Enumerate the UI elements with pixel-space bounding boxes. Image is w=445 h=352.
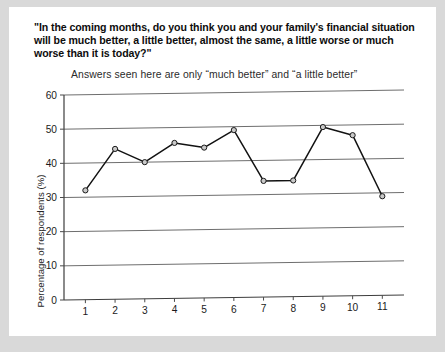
chart-canvas: 0102030405060 1234567891011 Percentage o…: [33, 89, 413, 324]
y-axis-ticks: 0102030405060: [46, 90, 64, 306]
x-tick-label: 1: [83, 306, 89, 317]
data-point: [231, 127, 236, 132]
scanned-page: "In the coming months, do you think you …: [0, 0, 445, 352]
gridline: [64, 158, 404, 163]
y-tick-label: 50: [46, 124, 58, 135]
y-tick-label: 20: [46, 226, 58, 237]
gridline: [64, 261, 404, 266]
x-tick-label: 2: [112, 305, 118, 316]
gridline: [64, 90, 404, 95]
y-tick-label: 10: [46, 260, 58, 271]
x-tick-label: 4: [172, 304, 178, 315]
data-series: [83, 124, 385, 198]
data-point: [350, 133, 355, 138]
series-line: [85, 127, 382, 196]
x-tick-label: 10: [347, 302, 359, 313]
x-tick-label: 11: [377, 301, 388, 312]
figure-card: "In the coming months, do you think you …: [9, 7, 436, 336]
data-point: [291, 178, 296, 183]
x-tick-label: 8: [290, 303, 296, 314]
data-point: [320, 124, 325, 129]
y-tick-label: 30: [46, 192, 58, 203]
data-point: [172, 140, 177, 145]
x-tick-label: 9: [320, 302, 326, 313]
data-point: [112, 146, 117, 151]
x-tick-label: 5: [201, 304, 207, 315]
data-point: [142, 160, 147, 165]
gridline: [64, 193, 404, 198]
axes: [64, 95, 404, 300]
y-tick-label: 60: [46, 90, 58, 101]
question-title: "In the coming months, do you think you …: [34, 21, 419, 61]
gridlines: [64, 90, 404, 266]
y-axis-label: Percentage of respondents (%): [35, 175, 46, 308]
y-tick-label: 40: [46, 158, 58, 169]
x-tick-label: 6: [231, 304, 237, 315]
data-point: [261, 178, 266, 183]
gridline: [64, 227, 404, 232]
line-chart: 0102030405060 1234567891011 Percentage o…: [33, 89, 413, 324]
data-point: [380, 194, 385, 199]
x-tick-label: 7: [261, 303, 267, 314]
data-point: [202, 145, 207, 150]
x-tick-label: 3: [142, 305, 148, 316]
data-point: [83, 188, 88, 193]
chart-subtitle: Answers seen here are only “much better”…: [71, 69, 357, 80]
y-tick-label: 0: [51, 295, 57, 306]
